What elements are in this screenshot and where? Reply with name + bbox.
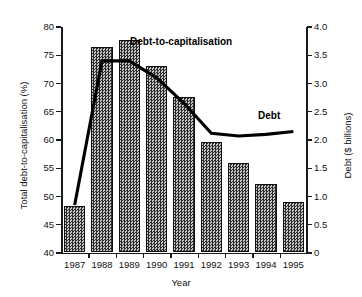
y-axis-left-tick-label: 55: [14, 162, 54, 173]
y-axis-left-tick-label: 75: [14, 49, 54, 60]
debt-line-path: [75, 61, 294, 205]
y-axis-left-tick-label: 60: [14, 134, 54, 145]
y-axis-right-tick: [307, 111, 312, 112]
y-axis-left-tick-label: 65: [14, 106, 54, 117]
annotation-debt: Debt: [258, 110, 280, 121]
y-axis-right-tick-label: 1.5: [314, 162, 354, 173]
y-axis-right-tick-label: 2.0: [314, 134, 354, 145]
y-axis-left-tick-label: 40: [14, 247, 54, 258]
y-axis-right-tick: [307, 224, 312, 225]
y-axis-right-tick-label: 3.5: [314, 49, 354, 60]
y-axis-right-tick: [307, 252, 312, 253]
y-axis-right-tick-label: 3.0: [314, 78, 354, 89]
y-axis-right-tick: [307, 55, 312, 56]
y-axis-right-tick: [307, 168, 312, 169]
y-axis-right-tick-label: 0: [314, 247, 354, 258]
annotation-debt-to-capitalisation: Debt-to-capitalisation: [130, 36, 232, 47]
y-axis-right-tick-label: 4.0: [314, 21, 354, 32]
y-axis-right-tick: [307, 83, 312, 84]
y-axis-right-tick-label: 2.5: [314, 106, 354, 117]
y-axis-left-tick-label: 45: [14, 219, 54, 230]
y-axis-left-tick-label: 70: [14, 78, 54, 89]
chart-figure: Total debt-to-capitalisation (%) Debt ($…: [0, 0, 362, 297]
y-axis-right-tick-label: 0.5: [314, 219, 354, 230]
line-series: [61, 27, 307, 254]
y-axis-left-tick-label: 50: [14, 191, 54, 202]
y-axis-right-tick: [307, 139, 312, 140]
x-axis-tick-label: 1995: [273, 259, 313, 270]
y-axis-right-tick: [307, 26, 312, 27]
y-axis-right-tick: [307, 196, 312, 197]
y-axis-right-tick-label: 1.0: [314, 191, 354, 202]
y-axis-left-tick-label: 80: [14, 21, 54, 32]
x-axis-title: Year: [0, 277, 362, 288]
plot-area: 404550556065707580 00.51.01.52.02.53.03.…: [61, 27, 307, 253]
